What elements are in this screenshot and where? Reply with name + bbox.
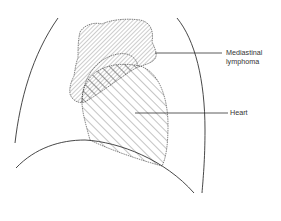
right-lung-border <box>177 18 205 193</box>
lymphoma-label-line2: lymphoma <box>226 57 262 66</box>
left-lung-border <box>15 18 58 143</box>
lymphoma-label: Mediastinal lymphoma <box>226 48 262 66</box>
diaphragm <box>16 140 194 193</box>
heart-label: Heart <box>230 108 248 117</box>
lymphoma-label-line1: Mediastinal <box>226 48 262 57</box>
